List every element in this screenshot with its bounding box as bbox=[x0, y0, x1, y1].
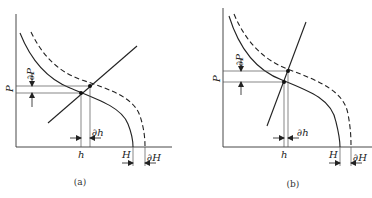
dashed-curve bbox=[234, 14, 351, 147]
figure: P ∂P h ∂h H ∂H (a) bbox=[0, 0, 372, 198]
H-label: H bbox=[328, 149, 338, 160]
dashed-curve bbox=[31, 32, 145, 147]
y-axis-label: P bbox=[4, 85, 15, 93]
caption-b: (b) bbox=[287, 179, 300, 189]
dh-label: ∂h bbox=[297, 127, 309, 138]
intersection-point-dashed bbox=[286, 69, 290, 73]
y-axis-label: P bbox=[211, 75, 222, 83]
dH-label: ∂H bbox=[353, 152, 367, 163]
panel-b: P ∂P h ∂h H ∂H (b) bbox=[211, 8, 372, 189]
dP-label: ∂P bbox=[234, 54, 245, 66]
dh-label: ∂h bbox=[92, 127, 104, 138]
h-label: h bbox=[281, 149, 287, 160]
H-label: H bbox=[121, 149, 131, 160]
solid-curve bbox=[20, 33, 133, 147]
dH-label: ∂H bbox=[147, 152, 161, 163]
intersection-point-dashed bbox=[88, 84, 92, 88]
dP-label: ∂P bbox=[25, 68, 36, 80]
panel-a: P ∂P h ∂h H ∂H (a) bbox=[4, 14, 172, 187]
intersection-point-solid bbox=[79, 91, 83, 95]
caption-a: (a) bbox=[74, 177, 86, 187]
h-label: h bbox=[78, 149, 84, 160]
intersection-point-solid bbox=[282, 80, 286, 84]
